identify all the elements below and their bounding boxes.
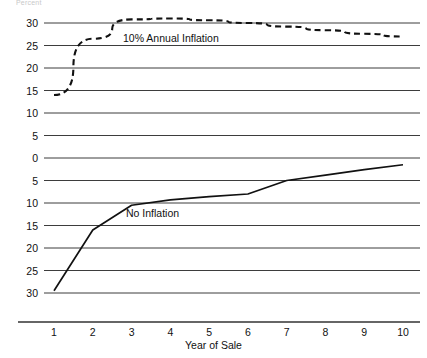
- y-axis-tick-label: 5: [8, 176, 38, 187]
- y-axis-tick-label: 10: [8, 198, 38, 209]
- x-axis-tick-label: 9: [352, 327, 376, 338]
- y-axis-tick-label: 15: [8, 221, 38, 232]
- y-axis-tick-label: 15: [8, 86, 38, 97]
- y-axis-tick-label: 20: [8, 243, 38, 254]
- y-axis-tick-label: 30: [8, 18, 38, 29]
- chart-plot-area: [0, 0, 427, 358]
- x-axis-title: Year of Sale: [0, 340, 427, 351]
- x-axis-tick-label: 4: [158, 327, 182, 338]
- series-label-no-inflation: No Inflation: [126, 208, 179, 219]
- x-axis-tick-label: 5: [197, 327, 221, 338]
- x-axis-tick-label: 6: [236, 327, 260, 338]
- y-axis-tick-label: 25: [8, 41, 38, 52]
- x-axis-tick-label: 10: [391, 327, 415, 338]
- y-axis-tick-label: 5: [8, 131, 38, 142]
- chart-container: Percent 30252015105051015202530 12345678…: [0, 0, 427, 358]
- series-line-10-annual-inflation: [54, 19, 403, 96]
- series-line-no-inflation: [54, 165, 403, 291]
- x-axis-tick-label: 7: [275, 327, 299, 338]
- y-axis-tick-label: 0: [8, 153, 38, 164]
- x-axis-tick-label: 3: [120, 327, 144, 338]
- y-axis-tick-label: 20: [8, 63, 38, 74]
- y-axis-tick-label: 25: [8, 266, 38, 277]
- y-axis-tick-label: 30: [8, 288, 38, 299]
- x-axis-tick-label: 2: [81, 327, 105, 338]
- x-axis-tick-label: 8: [313, 327, 337, 338]
- series-label-10-annual-inflation: 10% Annual Inflation: [123, 33, 219, 44]
- y-axis-tick-label: 10: [8, 108, 38, 119]
- x-axis-tick-label: 1: [42, 327, 66, 338]
- gridline-group: [44, 23, 420, 293]
